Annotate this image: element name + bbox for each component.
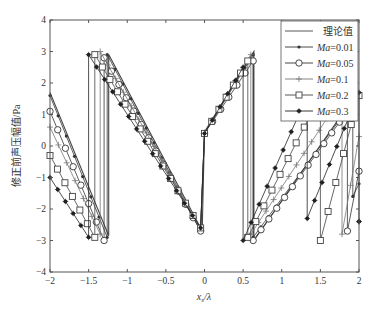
x-tick-label: −2	[45, 276, 55, 286]
y-tick-label: 2	[41, 78, 46, 88]
y-tick-label: 4	[41, 15, 46, 25]
y-tick-label: −4	[36, 267, 46, 277]
x-tick-labels: −2−1.5−1−0.500.511.52	[45, 276, 362, 286]
legend: 理论值Ma=0.01Ma=0.05Ma=0.1Ma=0.2Ma=0.3	[281, 21, 358, 121]
x-tick-label: 0.5	[237, 276, 249, 286]
y-axis-label: 修正前声压幅值/Pa	[10, 104, 22, 187]
x-tick-label: 0	[202, 276, 207, 286]
legend-label: Ma=0.2	[316, 90, 348, 101]
y-tick-label: 3	[41, 47, 46, 57]
x-tick-label: 2	[357, 276, 362, 286]
x-tick-label: 1	[279, 276, 284, 286]
y-tick-label: −3	[36, 236, 46, 246]
y-tick-labels: −4−3−2−101234	[36, 15, 46, 277]
x-axis-label-tail: /λ	[203, 291, 212, 302]
legend-label: Ma=0.3	[316, 106, 348, 117]
legend-label: Ma=0.05	[316, 58, 353, 69]
chart: −2−1.5−1−0.500.511.52 −4−3−2−101234 xs/λ…	[0, 0, 381, 317]
x-tick-label: 1.5	[314, 276, 326, 286]
y-tick-label: −1	[36, 173, 46, 183]
x-tick-label: −1.5	[80, 276, 97, 286]
x-tick-label: −0.5	[157, 276, 174, 286]
y-tick-label: 1	[41, 110, 46, 120]
x-axis-label: xs/λ	[196, 291, 212, 304]
y-tick-label: −2	[36, 204, 46, 214]
y-tick-label: 0	[41, 141, 46, 151]
legend-label: Ma=0.01	[316, 42, 353, 53]
legend-label: Ma=0.1	[316, 74, 348, 85]
legend-label: 理论值	[323, 25, 353, 37]
x-tick-label: −1	[122, 276, 132, 286]
